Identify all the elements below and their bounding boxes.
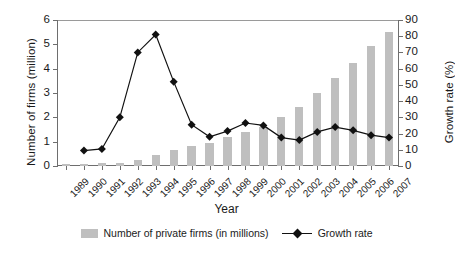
diamond-marker-icon xyxy=(80,147,88,155)
y-tick-label-right: 90 xyxy=(405,14,418,26)
x-tick-mark xyxy=(156,166,157,170)
x-tick-label: 1997 xyxy=(211,176,235,200)
x-tick-mark xyxy=(263,166,264,170)
y-tick-label-right: 30 xyxy=(405,111,418,123)
x-tick-mark xyxy=(228,166,229,170)
y-tick-label-right: 60 xyxy=(405,63,418,75)
diamond-marker-icon xyxy=(241,119,249,127)
x-tick-mark xyxy=(389,166,390,170)
diamond-marker-icon xyxy=(170,78,178,86)
y-tick-label-left: 4 xyxy=(30,63,50,75)
diamond-marker-icon xyxy=(116,113,124,121)
diamond-marker-icon xyxy=(295,136,303,144)
y-tick-label-right: 10 xyxy=(405,144,418,156)
x-tick-mark xyxy=(66,166,67,170)
x-tick-mark xyxy=(174,166,175,170)
diamond-marker-icon xyxy=(188,121,196,129)
diamond-marker-icon xyxy=(98,145,106,153)
x-tick-label: 1994 xyxy=(157,176,181,200)
x-tick-mark xyxy=(102,166,103,170)
x-axis-label: Year xyxy=(0,202,453,216)
x-tick-mark xyxy=(335,166,336,170)
x-tick-mark xyxy=(210,166,211,170)
x-tick-label: 2007 xyxy=(391,176,415,200)
x-tick-mark xyxy=(353,166,354,170)
x-tick-mark xyxy=(317,166,318,170)
x-tick-mark xyxy=(371,166,372,170)
x-tick-label: 1990 xyxy=(86,176,110,200)
diamond-marker-icon xyxy=(331,123,339,131)
y-tick-label-left: 6 xyxy=(30,14,50,26)
y-tick-label-right: 20 xyxy=(405,128,418,140)
legend-bar-label: Number of private firms (in millions) xyxy=(104,227,269,239)
legend-item-bars: Number of private firms (in millions) xyxy=(81,227,269,239)
x-tick-label: 1992 xyxy=(121,176,145,200)
x-tick-mark xyxy=(245,166,246,170)
x-tick-mark xyxy=(120,166,121,170)
y-tick-label-right: 80 xyxy=(405,30,418,42)
diamond-marker-icon xyxy=(367,131,375,139)
x-tick-label: 1995 xyxy=(175,176,199,200)
chart-legend: Number of private firms (in millions) Gr… xyxy=(0,227,453,239)
line-series xyxy=(57,20,398,166)
x-tick-label: 1996 xyxy=(193,176,217,200)
x-tick-label: 1993 xyxy=(139,176,163,200)
x-tick-mark xyxy=(299,166,300,170)
x-tick-mark xyxy=(138,166,139,170)
x-tick-mark xyxy=(281,166,282,170)
y-tick-label-right: 0 xyxy=(405,160,411,172)
growth-rate-line xyxy=(84,35,389,151)
y-tick-label-left: 0 xyxy=(30,160,50,172)
diamond-marker-icon xyxy=(313,128,321,136)
y-tick-label-right: 50 xyxy=(405,79,418,91)
x-tick-mark xyxy=(84,166,85,170)
legend-line-label: Growth rate xyxy=(318,227,373,239)
diamond-marker-icon xyxy=(385,134,393,142)
plot-area xyxy=(57,20,398,166)
legend-item-line: Growth rate xyxy=(282,227,373,239)
diamond-marker-icon xyxy=(206,133,214,141)
y-tick-mark-left xyxy=(53,166,58,167)
y-tick-label-right: 70 xyxy=(405,46,418,58)
diamond-marker-icon xyxy=(349,126,357,134)
diamond-marker-icon xyxy=(259,121,267,129)
y-tick-label-left: 2 xyxy=(30,111,50,123)
diamond-marker-icon xyxy=(292,228,302,238)
legend-line-swatch xyxy=(282,228,312,238)
y-tick-label-left: 3 xyxy=(30,87,50,99)
diamond-marker-icon xyxy=(277,134,285,142)
diamond-marker-icon xyxy=(224,127,232,135)
y-tick-label-right: 40 xyxy=(405,95,418,107)
x-tick-label: 1991 xyxy=(103,176,127,200)
x-tick-mark xyxy=(192,166,193,170)
legend-bar-swatch xyxy=(81,229,98,238)
y-tick-label-left: 5 xyxy=(30,38,50,50)
x-tick-label: 1989 xyxy=(68,176,92,200)
y-axis-label-right: Growth rate (%) xyxy=(443,27,455,177)
y-tick-label-left: 1 xyxy=(30,136,50,148)
y-axis-right-line xyxy=(398,20,399,167)
